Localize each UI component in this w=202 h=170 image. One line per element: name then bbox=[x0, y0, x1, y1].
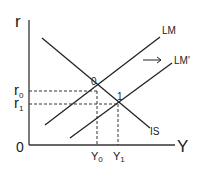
is-lm-diagram: r Y 0 LM LM' IS 0 1 r0 r1 Y0 Y1 bbox=[0, 0, 202, 170]
y0-label: Y0 bbox=[91, 150, 103, 164]
y-axis-label: r bbox=[15, 12, 21, 31]
x-axis-label: Y bbox=[177, 137, 188, 156]
is-label: IS bbox=[150, 126, 160, 137]
lm-curve bbox=[45, 37, 160, 125]
lm-prime-label: LM' bbox=[174, 55, 190, 66]
origin-label: 0 bbox=[16, 139, 24, 155]
lm-label: LM bbox=[162, 25, 176, 36]
point-0-label: 0 bbox=[91, 76, 97, 87]
y1-label: Y1 bbox=[113, 150, 125, 164]
point-1-label: 1 bbox=[117, 91, 123, 102]
